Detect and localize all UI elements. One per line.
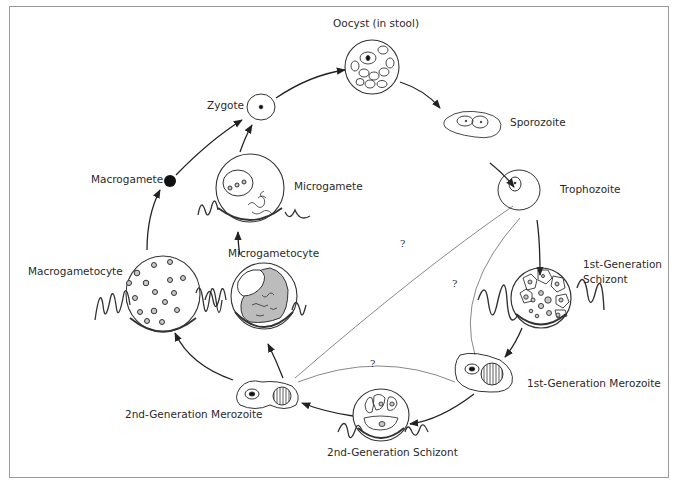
trophozoite-cell	[498, 170, 540, 210]
label-trophozoite: Trophozoite	[560, 183, 621, 196]
link-trophozoite-to-merozoite2	[295, 206, 513, 378]
merozoite1-cell	[455, 353, 512, 392]
label-merozoite1: 1st-Generation Merozoite	[527, 377, 661, 390]
arrow-merozoite2-to-microgametocyte	[268, 344, 283, 378]
arrow-merozoite1-to-schizont2	[410, 394, 474, 424]
macrogamete-cell	[164, 175, 176, 187]
uncertain-marker-merozoite1-merozoite2: ?	[370, 358, 375, 369]
arrow-oocyst-to-sporozoite	[400, 82, 440, 108]
label-microgametocyte: Microgametocyte	[228, 247, 319, 260]
arrow-microgamete-to-zygote	[240, 125, 252, 152]
microgametocyte-cell	[205, 263, 306, 329]
label-schizont1-line2: Schizont	[583, 273, 628, 286]
label-macrogametocyte: Macrogametocyte	[28, 265, 123, 278]
link-merozoite1-to-merozoite2	[298, 366, 455, 382]
sporozoite-cell	[444, 111, 501, 137]
arrow-trophozoite-to-schizont1	[537, 220, 540, 275]
label-oocyst: Oocyst (in stool)	[333, 17, 419, 30]
schizont2-cell	[338, 389, 428, 441]
link-trophozoite-to-merozoite1	[470, 218, 520, 355]
merozoite2-cell	[237, 381, 299, 409]
uncertain-marker-trophozoite-merozoite1: ?	[452, 278, 457, 289]
label-schizont1-line1: 1st-Generation	[583, 258, 662, 271]
zygote-cell	[247, 94, 275, 120]
label-merozoite2: 2nd-Generation Merozoite	[125, 408, 263, 421]
arrow-schizont2-to-merozoite2	[302, 403, 353, 416]
arrow-macrogametocyte-to-macrogamete	[147, 190, 160, 250]
label-microgamete: Microgamete	[294, 180, 363, 193]
arrow-macrogamete-to-zygote	[176, 120, 242, 175]
arrow-merozoite2-to-macrogametocyte	[175, 333, 233, 380]
label-sporozoite: Sporozoite	[510, 116, 566, 129]
life-cycle-diagram	[0, 0, 687, 492]
label-schizont2: 2nd-Generation Schizont	[327, 446, 458, 459]
label-macrogamete: Macrogamete	[91, 173, 163, 186]
arrow-zygote-to-oocyst	[276, 70, 345, 98]
arrow-sporozoite-to-trophozoite	[490, 163, 514, 187]
oocyst-cell	[345, 40, 399, 94]
label-zygote: Zygote	[207, 99, 244, 112]
uncertain-marker-trophozoite-merozoite2: ?	[400, 238, 405, 249]
arrow-schizont1-to-merozoite1	[505, 328, 522, 357]
